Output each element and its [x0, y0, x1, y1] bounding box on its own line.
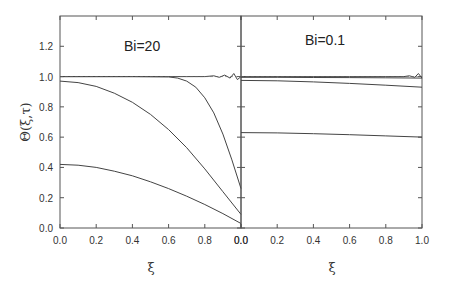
x-axis-title: ξ [328, 260, 335, 275]
y-tick-label: 0.4 [39, 162, 53, 173]
chart: Θ(ξ,τ) 0.00.20.40.60.81.01.2 Bi=20 ξ 0.0… [0, 0, 449, 294]
y-tick-label: 0.2 [39, 193, 53, 204]
y-tick-label: 0.0 [39, 223, 53, 234]
x-tick-label: 0.2 [270, 235, 284, 246]
x-tick-label: 0.6 [162, 235, 176, 246]
y-tick-label: 0.8 [39, 102, 53, 113]
series-line-curve-4 [241, 133, 422, 138]
panel-title: Bi=20 [124, 38, 160, 54]
series-line-curve-2 [241, 77, 422, 78]
series-line-curve-4 [60, 164, 241, 223]
x-tick-label: 0.4 [125, 235, 139, 246]
y-tick-label: 1.2 [39, 41, 53, 52]
x-tick-label: 0.0 [234, 235, 248, 246]
x-tick-label: 0.0 [53, 235, 67, 246]
panel-bi-20: Bi=20 ξ 0.00.20.40.60.80.0 [53, 16, 248, 275]
y-tick-label: 0.6 [39, 132, 53, 143]
x-axis-title: ξ [147, 260, 154, 275]
series-line-curve-3 [60, 81, 241, 214]
x-tick-label: 0.4 [306, 235, 320, 246]
y-tick-label: 1.0 [39, 72, 53, 83]
x-tick-label: 0.8 [379, 235, 393, 246]
y-axis-title-text: Θ(ξ,τ) [18, 102, 33, 141]
series-line-curve-2 [60, 77, 241, 189]
panel-title: Bi=0.1 [305, 32, 345, 48]
y-axis-ticks: 0.00.20.40.60.81.01.2 [39, 41, 422, 234]
panel-bi-0-1: Bi=0.1 ξ 0.00.20.40.60.81.0 [234, 16, 429, 275]
x-tick-label: 0.6 [343, 235, 357, 246]
x-tick-label: 1.0 [415, 235, 429, 246]
series-line-curve-3 [241, 80, 422, 87]
x-tick-label: 0.2 [89, 235, 103, 246]
y-axis-title: Θ(ξ,τ) [18, 102, 33, 141]
x-tick-label: 0.8 [198, 235, 212, 246]
